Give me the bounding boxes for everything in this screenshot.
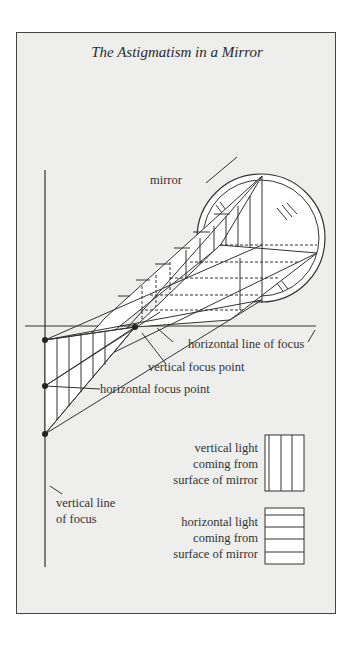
vertical-line-leader [50,486,62,494]
mirror-leader [206,157,237,183]
legend-horizontal-swatch [265,508,304,564]
horizontal-line-leader [157,328,173,342]
label-mirror: mirror [150,172,182,188]
label-horizontal-focus-point: horizontal focus point [100,381,210,397]
legend-vertical-swatch [265,435,304,491]
legend-horizontal-text: horizontal light coming from surface of … [150,514,258,562]
horizontal-focus-dot [42,383,48,389]
label-vertical-focus-point: vertical focus point [148,359,245,375]
vertical-focus-dot [132,324,138,330]
focus-dot-bottom [42,431,48,437]
label-vertical-line-of-focus: vertical line of focus [56,495,115,527]
label-horizontal-line-of-focus: horizontal line of focus [188,336,304,352]
focus-dot-top [42,337,48,343]
legend-vertical-text: vertical light coming from surface of mi… [150,440,258,488]
